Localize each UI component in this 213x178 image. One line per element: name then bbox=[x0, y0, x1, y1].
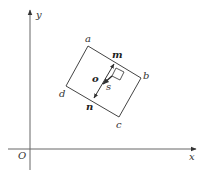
diagram-canvas: x y O a b c d m o s n bbox=[0, 0, 213, 178]
vector-n-label: n bbox=[86, 101, 93, 112]
vertex-d-label: d bbox=[59, 88, 65, 99]
axes: x y O bbox=[8, 9, 196, 170]
vertex-a-label: a bbox=[85, 33, 91, 44]
y-axis-label: y bbox=[35, 9, 42, 20]
vector-o-label: o bbox=[92, 73, 99, 84]
vector-s-label: s bbox=[106, 81, 111, 92]
small-rectangle bbox=[112, 68, 124, 80]
origin-label: O bbox=[18, 150, 26, 161]
vertex-c-label: c bbox=[116, 119, 122, 130]
vector-m-label: m bbox=[112, 49, 123, 60]
x-axis-label: x bbox=[189, 151, 195, 162]
vertex-b-label: b bbox=[143, 70, 149, 81]
